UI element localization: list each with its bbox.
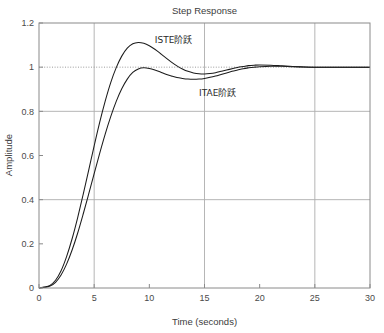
chart-title: Step Response [172,5,237,16]
y-tick-label-1.2: 1.2 [21,18,34,28]
x-tick-label-5: 5 [92,293,97,303]
chart-svg: Step Response 051015202530 00.20.40.60.8… [0,0,384,333]
x-axis-label: Time (seconds) [172,316,237,327]
y-tick-label-0.6: 0.6 [21,151,34,161]
x-tick-label-0: 0 [36,293,41,303]
y-axis-label: Amplitude [3,134,14,176]
y-tick-label-0: 0 [29,283,34,293]
y-tick-label-0.4: 0.4 [21,195,34,205]
annotation-itae: ITAE阶跃 [199,87,236,98]
x-tick-label-30: 30 [365,293,375,303]
y-tick-label-0.2: 0.2 [21,239,34,249]
y-tick-label-0.8: 0.8 [21,107,34,117]
figure-background [0,0,384,333]
step-response-figure: Step Response 051015202530 00.20.40.60.8… [0,0,384,333]
x-tick-label-25: 25 [310,293,320,303]
y-tick-label-1: 1 [29,62,34,72]
annotation-iste: ISTE阶跃 [155,34,193,45]
x-tick-label-15: 15 [199,293,209,303]
x-tick-label-20: 20 [255,293,265,303]
x-tick-label-10: 10 [144,293,154,303]
